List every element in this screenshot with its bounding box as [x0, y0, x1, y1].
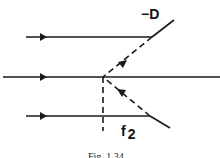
top-ray-extension [103, 37, 152, 77]
figure-caption: Fig. 1.34 [88, 151, 124, 158]
arrow-right-icon [40, 33, 47, 41]
lens-power-label: −D [141, 6, 159, 22]
top-refracted-ray [152, 20, 174, 37]
bottom-refracted-ray [150, 116, 170, 128]
bottom-ray-extension [103, 77, 150, 116]
arrow-right-icon [40, 73, 47, 81]
ray-diagram: −D f2 Fig. 1.34 [0, 0, 220, 158]
arrow-right-icon [40, 112, 47, 120]
focal-label: f2 [121, 123, 136, 142]
